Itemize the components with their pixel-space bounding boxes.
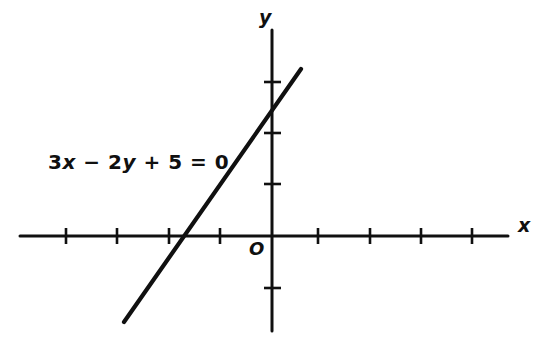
- y-axis-label: y: [259, 6, 271, 28]
- equation-constant-5: 5: [168, 150, 182, 174]
- equation-annotation: 3x − 2y + 5 = 0: [48, 150, 229, 174]
- equation-minus-sign: −: [83, 150, 100, 174]
- equation-variable-x: x: [62, 150, 75, 174]
- equation-coefficient-2: 2: [108, 150, 122, 174]
- equation-line: [124, 69, 301, 322]
- origin-label: O: [249, 238, 264, 259]
- equation-equals-sign: =: [190, 150, 207, 174]
- x-axis-label: x: [518, 214, 530, 236]
- coordinate-plane-figure: [0, 0, 547, 350]
- equation-result-0: 0: [215, 150, 229, 174]
- equation-plus-sign: +: [143, 150, 160, 174]
- equation-coefficient-3: 3: [48, 150, 62, 174]
- equation-variable-y: y: [122, 150, 136, 174]
- figure-page: 3x − 2y + 5 = 0 x y O: [0, 0, 547, 350]
